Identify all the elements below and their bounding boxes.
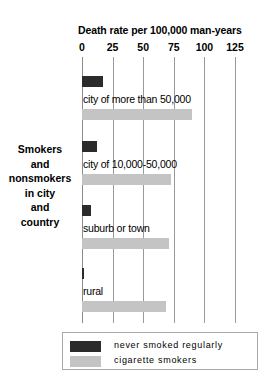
x-tick-label: 0 xyxy=(79,41,85,53)
bar-never-smoked xyxy=(82,205,91,216)
chart-side-caption: Smokersandnonsmokersin cityandcountry xyxy=(2,142,78,229)
bar-never-smoked xyxy=(82,268,84,279)
bar-cigarette-smokers xyxy=(82,238,169,249)
bar-group-label: rural xyxy=(83,285,103,297)
chart-container: Smokersandnonsmokersin cityandcountry De… xyxy=(0,0,271,385)
bar-cigarette-smokers xyxy=(82,301,166,312)
chart-legend: never smoked regularlycigarette smokers xyxy=(62,332,258,370)
bar-group: city of 10,000-50,000 xyxy=(82,141,235,186)
bar-cigarette-smokers xyxy=(82,174,171,185)
legend-swatch-never_smoked xyxy=(70,341,101,352)
legend-label: cigarette smokers xyxy=(114,355,197,365)
bar-group-label: city of more than 50,000 xyxy=(83,93,191,105)
bar-never-smoked xyxy=(82,76,103,87)
bar-group-label: suburb or town xyxy=(83,222,150,234)
bar-cigarette-smokers xyxy=(82,109,192,120)
x-tick-label: 25 xyxy=(107,41,119,53)
x-tick-label: 50 xyxy=(137,41,149,53)
side-caption-line: and xyxy=(2,200,78,215)
chart-title: Death rate per 100,000 man-years xyxy=(78,24,271,36)
side-caption-line: Smokers xyxy=(2,142,78,157)
legend-label: never smoked regularly xyxy=(114,340,223,350)
side-caption-line: country xyxy=(2,215,78,230)
x-tick-label: 125 xyxy=(226,41,244,53)
side-caption-line: nonsmokers xyxy=(2,171,78,186)
bar-group: rural xyxy=(82,268,235,313)
bar-group: suburb or town xyxy=(82,205,235,250)
plot-area: city of more than 50,000city of 10,000-5… xyxy=(82,57,235,323)
bar-group-label: city of 10,000-50,000 xyxy=(83,158,177,170)
gridline xyxy=(235,57,236,323)
x-axis-tick-labels: 0255075100125 xyxy=(0,41,271,55)
legend-swatch-cigarette_smokers xyxy=(70,356,101,367)
side-caption-line: and xyxy=(2,157,78,172)
bar-never-smoked xyxy=(82,141,97,152)
x-tick-label: 100 xyxy=(196,41,214,53)
x-tick-label: 75 xyxy=(168,41,180,53)
side-caption-line: in city xyxy=(2,186,78,201)
bar-group: city of more than 50,000 xyxy=(82,76,235,121)
